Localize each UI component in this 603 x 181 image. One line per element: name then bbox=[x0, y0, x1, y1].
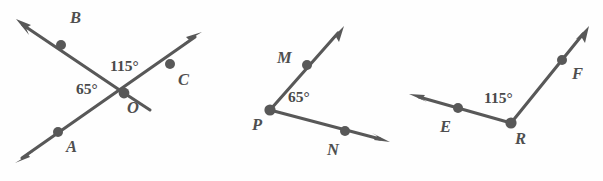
ray-P-to-N bbox=[270, 110, 380, 139]
point-dot-P bbox=[264, 104, 275, 115]
point-dot-C bbox=[165, 59, 175, 69]
figure-2-group bbox=[264, 26, 390, 142]
point-dot-E bbox=[453, 103, 463, 113]
ray-O-to-B bbox=[23, 25, 124, 93]
arrowhead-A-end bbox=[15, 152, 33, 163]
label-point-F: F bbox=[572, 66, 583, 83]
point-dot-B bbox=[56, 40, 66, 50]
label-angle-65-fig2: 65° bbox=[288, 89, 310, 105]
label-point-R: R bbox=[515, 131, 526, 148]
point-dot-M bbox=[302, 60, 312, 70]
label-point-N: N bbox=[327, 142, 339, 159]
label-angle-115-fig1: 115° bbox=[110, 58, 139, 74]
point-dot-R bbox=[505, 117, 516, 128]
point-dot-N bbox=[340, 126, 350, 136]
figure-3-group bbox=[409, 26, 589, 129]
line-A-O-C bbox=[22, 37, 195, 158]
label-point-E: E bbox=[440, 119, 451, 136]
point-dot-A bbox=[53, 127, 63, 137]
label-point-A: A bbox=[66, 139, 77, 156]
label-angle-115-fig3: 115° bbox=[484, 90, 513, 106]
point-dot-F bbox=[557, 55, 567, 65]
label-point-M: M bbox=[277, 50, 292, 67]
label-point-O: O bbox=[127, 100, 139, 117]
label-point-P: P bbox=[252, 117, 262, 134]
figure-1-group bbox=[15, 19, 202, 163]
label-point-B: B bbox=[70, 10, 81, 27]
point-dot-O bbox=[119, 88, 130, 99]
arrowhead-B-end bbox=[16, 19, 31, 35]
label-angle-65-fig1: 65° bbox=[76, 81, 98, 97]
label-point-C: C bbox=[178, 72, 189, 89]
geometry-figure-sheet: B 115° C 65° O A M 65° P N 115° F E R bbox=[0, 0, 603, 181]
